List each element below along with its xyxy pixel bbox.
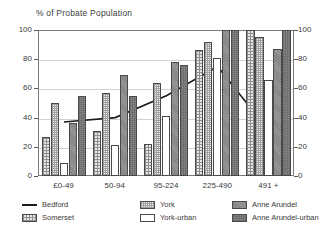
y-tick-mark-right	[294, 59, 298, 60]
bar-group	[89, 30, 140, 176]
legend-label: Anne Arundel-urban	[252, 213, 319, 222]
bar-york-urban[interactable]	[264, 80, 272, 176]
y-tick-mark-left	[34, 176, 38, 177]
x-tick-label: 491 +	[243, 181, 294, 190]
bar-anne-arundel-urban[interactable]	[282, 30, 290, 176]
y-tick-label-right: 0	[298, 171, 328, 180]
bar-anne-arundel[interactable]	[171, 62, 179, 176]
legend-item[interactable]: Somerset	[22, 213, 74, 222]
legend-swatch	[232, 201, 247, 209]
y-tick-label-right: 20	[298, 142, 328, 151]
bar-anne-arundel-urban[interactable]	[78, 96, 86, 176]
y-tick-mark-right	[294, 30, 298, 31]
y-tick-mark-left	[34, 30, 38, 31]
bar-somerset[interactable]	[42, 137, 50, 176]
bar-anne-arundel[interactable]	[69, 123, 77, 176]
y-tick-mark-right	[294, 176, 298, 177]
legend-swatch	[22, 214, 37, 222]
bar-anne-arundel-urban[interactable]	[180, 65, 188, 176]
bars-layer	[38, 30, 294, 176]
bar-somerset[interactable]	[195, 50, 203, 176]
legend-label: Bedford	[42, 200, 68, 209]
bar-york-urban[interactable]	[111, 145, 119, 176]
bar-somerset[interactable]	[144, 144, 152, 176]
y-tick-label-right: 80	[298, 54, 328, 63]
legend-line-swatch	[22, 201, 37, 209]
y-tick-mark-left	[34, 88, 38, 89]
legend-label: Somerset	[42, 213, 74, 222]
bar-york[interactable]	[102, 93, 110, 176]
bar-york-urban[interactable]	[162, 116, 170, 176]
y-tick-label-left: 60	[2, 83, 32, 92]
legend-item[interactable]: Bedford	[22, 200, 68, 209]
y-tick-mark-right	[294, 147, 298, 148]
legend-label: York-urban	[160, 213, 196, 222]
y-tick-label-left: 40	[2, 113, 32, 122]
chart-container: % of Probate Population BedfordSomersetY…	[0, 0, 332, 235]
bar-somerset[interactable]	[246, 30, 254, 176]
bar-york[interactable]	[153, 83, 161, 176]
y-tick-label-right: 60	[298, 83, 328, 92]
bar-york-urban[interactable]	[213, 58, 221, 176]
y-tick-mark-left	[34, 59, 38, 60]
legend-swatch	[140, 201, 155, 209]
y-tick-label-left: 0	[2, 171, 32, 180]
legend-swatch	[232, 214, 247, 222]
x-tick-label: 225-490	[192, 181, 243, 190]
legend-label: Anne Arundel	[252, 200, 297, 209]
bar-anne-arundel[interactable]	[120, 75, 128, 176]
chart-title: % of Probate Population	[36, 8, 132, 18]
y-tick-label-left: 100	[2, 25, 32, 34]
bar-anne-arundel[interactable]	[222, 30, 230, 176]
legend-item[interactable]: York-urban	[140, 213, 196, 222]
bar-anne-arundel-urban[interactable]	[231, 30, 239, 176]
x-tick-label: 50-94	[89, 181, 140, 190]
bar-york-urban[interactable]	[60, 163, 68, 176]
bar-york[interactable]	[204, 42, 212, 176]
bar-york[interactable]	[51, 103, 59, 176]
y-tick-label-left: 20	[2, 142, 32, 151]
x-tick-label: £0-49	[38, 181, 89, 190]
bar-york[interactable]	[255, 37, 263, 176]
legend-swatch	[140, 214, 155, 222]
bar-group	[192, 30, 243, 176]
legend-item[interactable]: Anne Arundel-urban	[232, 213, 319, 222]
legend-item[interactable]: York	[140, 200, 175, 209]
legend-item[interactable]: Anne Arundel	[232, 200, 297, 209]
bar-group	[243, 30, 294, 176]
y-tick-label-right: 40	[298, 113, 328, 122]
bar-anne-arundel-urban[interactable]	[129, 96, 137, 176]
bar-group	[38, 30, 89, 176]
bar-anne-arundel[interactable]	[273, 49, 281, 176]
y-tick-mark-left	[34, 147, 38, 148]
bar-group	[140, 30, 191, 176]
bar-somerset[interactable]	[93, 131, 101, 176]
y-tick-label-right: 100	[298, 25, 328, 34]
x-tick-label: 95-224	[140, 181, 191, 190]
y-tick-mark-right	[294, 88, 298, 89]
y-tick-label-left: 80	[2, 54, 32, 63]
y-tick-mark-left	[34, 118, 38, 119]
y-tick-mark-right	[294, 118, 298, 119]
legend-label: York	[160, 200, 175, 209]
